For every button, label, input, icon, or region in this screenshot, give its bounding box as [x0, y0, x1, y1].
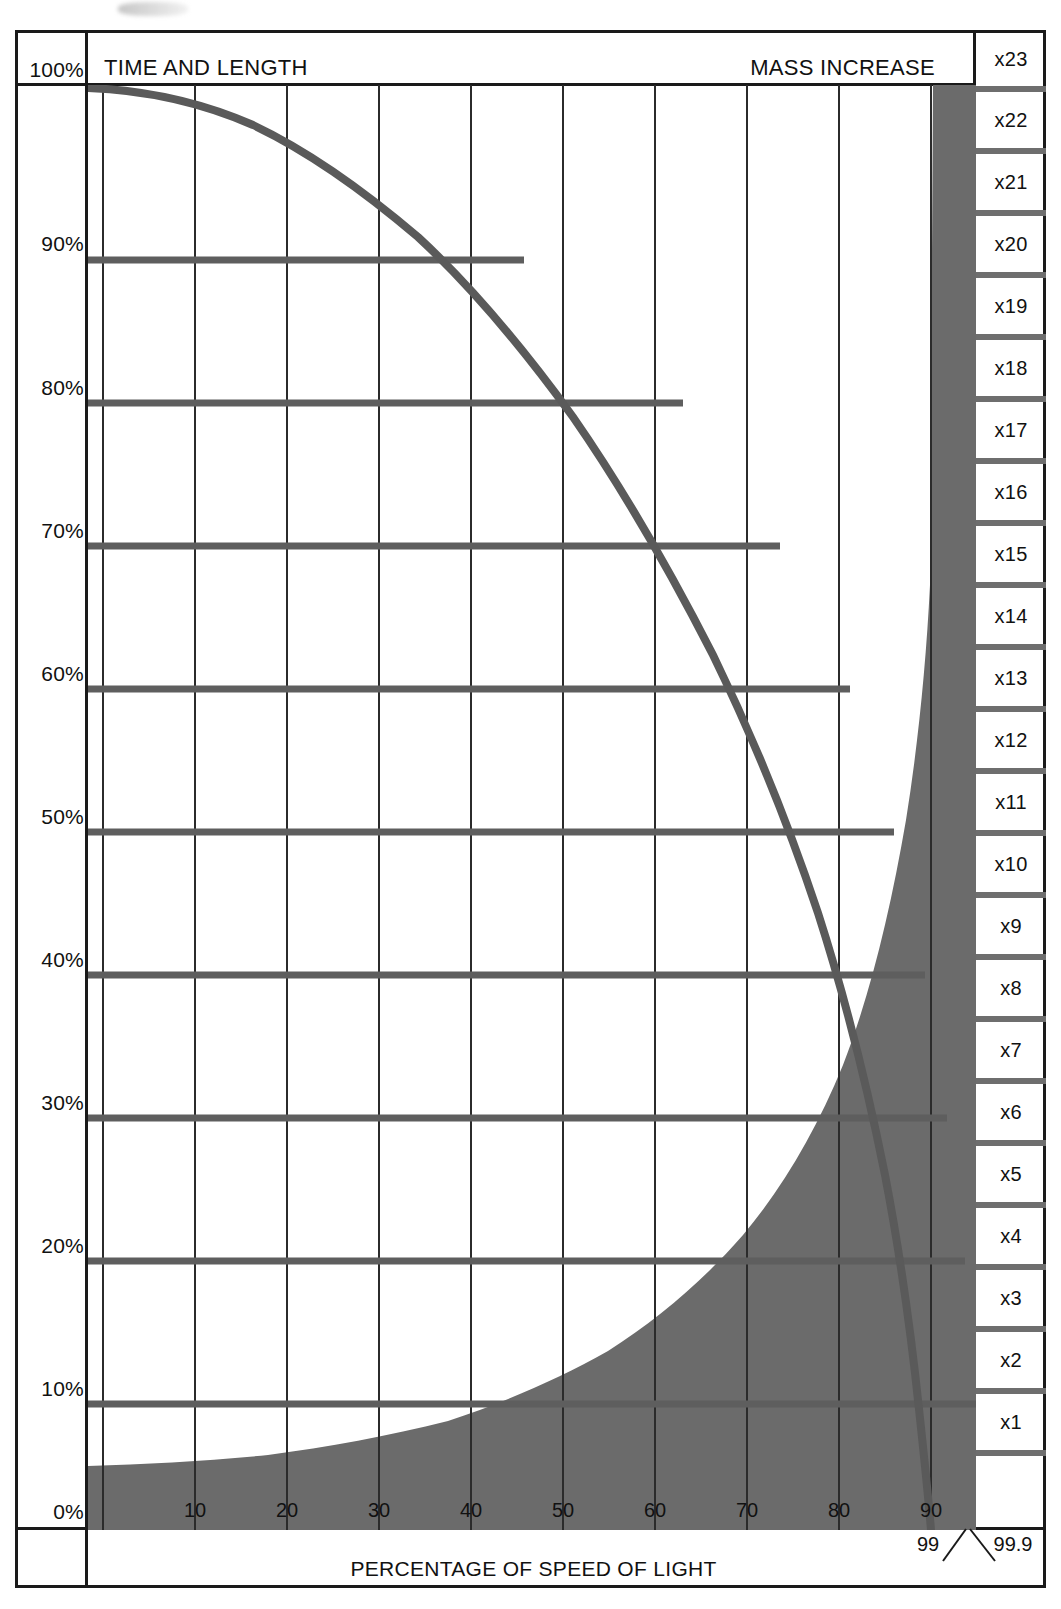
y-tick-70: 70% — [41, 519, 84, 546]
x-tick-10: 10 — [184, 1499, 206, 1522]
mass-tick-x17: x17 — [976, 402, 1046, 458]
y-tick-100: 100% — [29, 58, 84, 85]
plot-svg — [88, 85, 976, 1530]
x-tick-60: 60 — [644, 1499, 666, 1522]
mass-tick-x19: x19 — [976, 278, 1046, 334]
x-axis: 10 20 30 40 50 60 70 80 90 99 99.9 PERCE… — [18, 1527, 1049, 1585]
y-tick-0: 0% — [53, 1500, 84, 1527]
mass-tick-x18: x18 — [976, 340, 1046, 396]
chart-frame: TIME AND LENGTH MASS INCREASE 100% 90% 8… — [15, 30, 1046, 1588]
mass-tick-x21: x21 — [976, 154, 1046, 210]
y-tick-10: 10% — [41, 1377, 84, 1404]
x-tick-80: 80 — [828, 1499, 850, 1522]
bottom-gutter-rule — [85, 1530, 88, 1588]
mass-tick-x22: x22 — [976, 92, 1046, 148]
mass-increase-area — [88, 85, 976, 1530]
mass-tick-x5: x5 — [976, 1146, 1046, 1202]
mass-tick-x6: x6 — [976, 1084, 1046, 1140]
mass-tick-x16: x16 — [976, 464, 1046, 520]
y-tick-40: 40% — [41, 948, 84, 975]
mass-tick-x3: x3 — [976, 1270, 1046, 1326]
title-mass-increase: MASS INCREASE — [750, 55, 935, 81]
mass-tick-x14: x14 — [976, 588, 1046, 644]
mass-rule-1 — [976, 1450, 1046, 1456]
x-tick-30: 30 — [368, 1499, 390, 1522]
mass-tick-x4: x4 — [976, 1208, 1046, 1264]
y-tick-60: 60% — [41, 662, 84, 689]
y-tick-30: 30% — [41, 1091, 84, 1118]
mass-tick-x11: x11 — [976, 774, 1046, 830]
mass-tick-x9: x9 — [976, 898, 1046, 954]
chart-header: TIME AND LENGTH MASS INCREASE — [88, 33, 1043, 85]
mass-tick-x7: x7 — [976, 1022, 1046, 1078]
mass-tick-x15: x15 — [976, 526, 1046, 582]
x-tick-90: 90 — [920, 1499, 942, 1522]
scan-smudge — [118, 2, 188, 16]
y-tick-50: 50% — [41, 805, 84, 832]
mass-tick-x23: x23 — [976, 33, 1046, 86]
mass-tick-x20: x20 — [976, 216, 1046, 272]
scan-artifact-strip — [0, 0, 1061, 30]
x-tick-20: 20 — [276, 1499, 298, 1522]
mass-tick-x12: x12 — [976, 712, 1046, 768]
title-time-and-length: TIME AND LENGTH — [104, 55, 308, 81]
y-axis-left: 100% 90% 80% 70% 60% 50% 40% 30% 20% 10%… — [18, 33, 88, 1591]
mass-tick-x10: x10 — [976, 836, 1046, 892]
x-tick-70: 70 — [736, 1499, 758, 1522]
y-tick-90: 90% — [41, 232, 84, 259]
x-axis-title: PERCENTAGE OF SPEED OF LIGHT — [18, 1557, 1049, 1581]
x-tick-40: 40 — [460, 1499, 482, 1522]
mass-tick-x8: x8 — [976, 960, 1046, 1016]
mass-tick-x13: x13 — [976, 650, 1046, 706]
mass-tick-x2: x2 — [976, 1332, 1046, 1388]
mass-tick-x1: x1 — [976, 1394, 1046, 1450]
y-tick-80: 80% — [41, 376, 84, 403]
x-tick-50: 50 — [552, 1499, 574, 1522]
y-tick-20: 20% — [41, 1234, 84, 1261]
y-axis-right-mass-scale: x23 x22 x21 x20 x19 x18 x17 x16 x15 x14 … — [976, 33, 1046, 1530]
plot-area — [88, 85, 976, 1530]
